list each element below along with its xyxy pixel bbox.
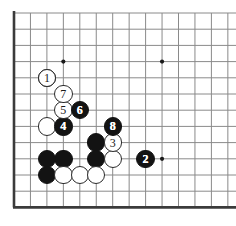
goban-grid <box>0 0 236 226</box>
move-stone-8: 8 <box>104 117 122 135</box>
move-number-label: 3 <box>110 136 116 148</box>
star-point <box>61 60 65 64</box>
star-point <box>160 60 164 64</box>
move-number-label: 2 <box>143 152 149 164</box>
move-number-label: 4 <box>60 120 66 132</box>
move-stone-1: 1 <box>38 69 56 87</box>
move-number-label: 5 <box>60 104 66 116</box>
move-number-label: 8 <box>110 120 116 132</box>
move-stone-2: 2 <box>136 150 154 168</box>
move-number-label: 6 <box>77 104 83 116</box>
move-stone-5: 5 <box>54 101 72 119</box>
white-stone <box>104 150 122 168</box>
move-stone-7: 7 <box>54 85 72 103</box>
move-number-label: 1 <box>44 71 50 83</box>
go-board-diagram: 12345678 <box>0 0 236 226</box>
white-stone <box>54 166 72 184</box>
move-stone-3: 3 <box>104 133 122 151</box>
move-stone-4: 4 <box>54 117 72 135</box>
move-number-label: 7 <box>60 87 66 99</box>
star-point <box>160 157 164 161</box>
